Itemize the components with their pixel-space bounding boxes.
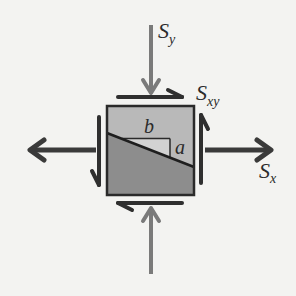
diagram-canvas: Sy Sxy Sx b a: [0, 0, 296, 296]
normal-stress-x-left-arrow: [30, 140, 96, 160]
label-sy: Sy: [158, 18, 176, 47]
label-sx: Sx: [259, 158, 277, 186]
normal-stress-x-right-arrow: [205, 140, 271, 160]
label-b: b: [144, 115, 154, 137]
normal-stress-y-bottom-arrow: [143, 208, 159, 274]
normal-stress-y-top-arrow: [143, 25, 159, 93]
label-a: a: [175, 136, 185, 158]
label-sxy: Sxy: [196, 80, 220, 109]
stress-element-diagram: Sy Sxy Sx b a: [0, 0, 296, 296]
